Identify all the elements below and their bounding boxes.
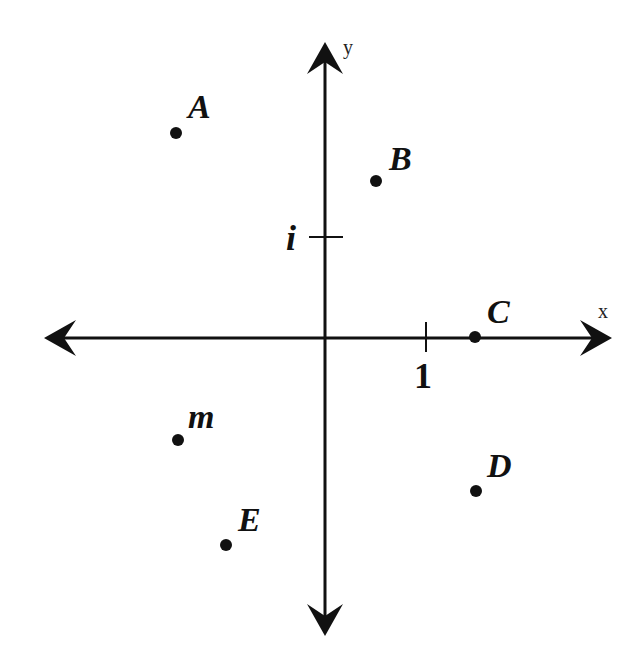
x-axis-label: x <box>598 300 608 322</box>
point-E: E <box>220 501 261 551</box>
point-dot <box>370 175 382 187</box>
point-dot <box>470 485 482 497</box>
point-label: A <box>186 88 211 125</box>
point-dot <box>170 127 182 139</box>
y-unit-tick-label: i <box>286 218 296 258</box>
point-label: E <box>237 501 261 538</box>
y-axis: i y <box>286 36 353 636</box>
point-label: D <box>486 447 512 484</box>
point-D: D <box>470 447 512 497</box>
point-label: B <box>388 140 412 177</box>
point-A: A <box>170 88 211 139</box>
x-axis: 1 x <box>44 300 612 396</box>
point-dot <box>172 434 184 446</box>
complex-plane-diagram: 1 x i y A B C m D <box>0 0 640 660</box>
point-B: B <box>370 140 412 187</box>
point-label: C <box>487 293 510 330</box>
y-axis-label: y <box>343 36 353 59</box>
point-m: m <box>172 398 214 446</box>
point-dot <box>220 539 232 551</box>
point-dot <box>469 331 481 343</box>
point-label: m <box>188 398 214 435</box>
x-unit-tick-label: 1 <box>414 356 432 396</box>
point-C: C <box>469 293 510 343</box>
